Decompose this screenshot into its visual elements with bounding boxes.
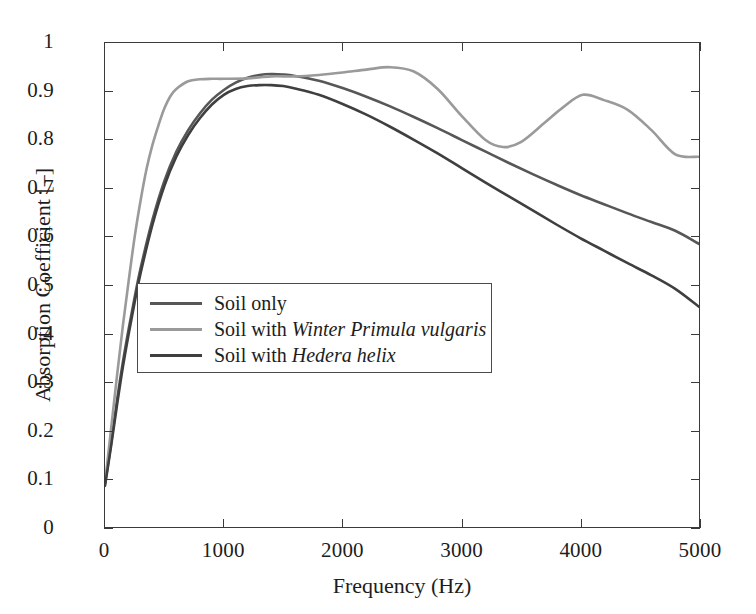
y-tick-mark [104, 382, 113, 383]
y-tick-mark-right [691, 334, 700, 335]
y-tick-mark-right [691, 91, 700, 92]
y-tick-mark [104, 479, 113, 480]
x-tick-mark [342, 519, 343, 528]
legend-label-species: Winter Primula vulgaris [292, 318, 486, 340]
legend-item[interactable]: Soil only [138, 290, 491, 316]
y-tick-mark-right [691, 188, 700, 189]
legend-line-swatch [150, 354, 202, 357]
y-tick-mark-right [691, 382, 700, 383]
x-tick-mark [581, 519, 582, 528]
legend-line-swatch [150, 328, 202, 331]
legend-label: Soil only [214, 292, 287, 314]
x-tick-mark-top [104, 42, 105, 51]
x-tick-label: 3000 [402, 540, 522, 561]
x-tick-label: 4000 [521, 540, 641, 561]
y-tick-mark-right [691, 479, 700, 480]
x-axis-label: Frequency (Hz) [104, 574, 700, 598]
legend-label: Soil with Hedera helix [214, 344, 396, 366]
y-tick-mark [104, 431, 113, 432]
legend-line-swatch [150, 302, 202, 305]
x-tick-label: 2000 [282, 540, 402, 561]
x-tick-mark [700, 519, 701, 528]
series-line-1 [105, 74, 699, 483]
y-tick-mark-right [691, 139, 700, 140]
x-tick-label: 5000 [640, 540, 756, 561]
y-tick-mark [104, 91, 113, 92]
x-tick-mark [223, 519, 224, 528]
legend-label-species: Hedera helix [292, 344, 396, 366]
x-tick-mark-top [462, 42, 463, 51]
y-tick-mark [104, 139, 113, 140]
legend-label: Soil with Winter Primula vulgaris [214, 318, 486, 340]
series-line-2 [105, 67, 699, 483]
y-tick-mark-right [691, 42, 700, 43]
y-tick-mark [104, 528, 113, 529]
legend-item[interactable]: Soil with Hedera helix [138, 342, 491, 368]
absorption-coefficient-chart: 00.10.20.30.40.50.60.70.80.91 0100020003… [0, 0, 756, 614]
y-tick-mark [104, 236, 113, 237]
x-tick-label: 1000 [163, 540, 283, 561]
legend-item[interactable]: Soil with Winter Primula vulgaris [138, 316, 491, 342]
y-tick-mark [104, 334, 113, 335]
y-tick-mark-right [691, 431, 700, 432]
x-tick-mark-top [223, 42, 224, 51]
x-tick-mark-top [700, 42, 701, 51]
x-tick-mark-top [581, 42, 582, 51]
y-tick-mark-right [691, 285, 700, 286]
x-tick-label: 0 [44, 540, 164, 561]
x-tick-mark [104, 519, 105, 528]
y-tick-mark [104, 285, 113, 286]
y-tick-mark-right [691, 528, 700, 529]
x-tick-mark [462, 519, 463, 528]
y-tick-mark-right [691, 236, 700, 237]
x-tick-mark-top [342, 42, 343, 51]
legend: Soil onlySoil with Winter Primula vulgar… [137, 283, 492, 373]
y-tick-mark [104, 42, 113, 43]
y-axis-label: Absorption Coefficient [–] [28, 42, 58, 528]
y-tick-mark [104, 188, 113, 189]
